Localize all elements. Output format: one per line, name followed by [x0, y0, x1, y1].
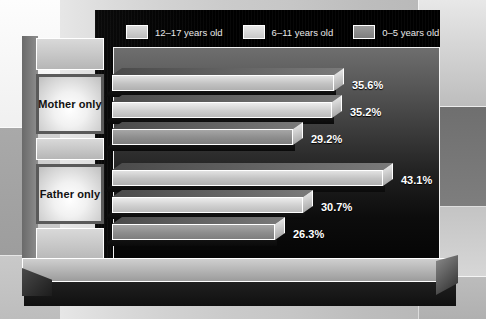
bar-front-face [112, 129, 293, 145]
axis-panel-spacer [36, 38, 104, 70]
bar-top-face [112, 122, 303, 129]
bar-father-12-17[interactable] [112, 170, 393, 186]
legend-swatch-0-5 [353, 25, 375, 39]
bar-value-label: 43.1% [401, 174, 432, 186]
legend-swatch-6-11 [243, 25, 265, 39]
bar-front-face [112, 224, 275, 240]
legend-swatch-12-17 [126, 25, 148, 39]
bar-value-label: 35.2% [350, 106, 381, 118]
bar-father-0-5[interactable] [112, 224, 285, 240]
legend-label: 12–17 years old [155, 27, 223, 38]
chart-canvas: 12–17 years old 6–11 years old 0–5 years… [0, 0, 486, 319]
legend-item-12-17[interactable]: 12–17 years old [126, 25, 223, 39]
bar-front-face [112, 75, 334, 91]
axis-label-father-only: Father only [36, 164, 104, 224]
chart-legend: 12–17 years old 6–11 years old 0–5 years… [126, 23, 459, 41]
bar-value-label: 29.2% [311, 133, 342, 145]
bar-front-face [112, 170, 383, 186]
legend-label: 6–11 years old [272, 27, 334, 38]
bar-top-face [112, 95, 342, 102]
axis-panel-spacer [36, 228, 104, 262]
bar-front-face [112, 102, 332, 118]
bar-top-face [112, 68, 344, 75]
bar-front-face [112, 197, 303, 213]
axis-label-mother-only: Mother only [36, 74, 104, 134]
bar-mother-12-17[interactable] [112, 75, 344, 91]
bar-mother-0-5[interactable] [112, 129, 303, 145]
bar-top-face [112, 190, 313, 197]
bar-top-face [112, 163, 393, 170]
axis-label-text: Mother only [38, 98, 101, 110]
legend-label: 0–5 years old [382, 27, 439, 38]
axis-label-text: Father only [40, 188, 100, 200]
axis-panel-spacer [36, 138, 104, 160]
legend-item-6-11[interactable]: 6–11 years old [243, 25, 334, 39]
legend-item-0-5[interactable]: 0–5 years old [353, 25, 439, 39]
bar-value-label: 26.3% [293, 228, 324, 240]
chart-base-top [22, 258, 448, 282]
bar-father-6-11[interactable] [112, 197, 313, 213]
bar-mother-6-11[interactable] [112, 102, 342, 118]
bar-top-face [112, 217, 285, 224]
bar-value-label: 35.6% [352, 79, 383, 91]
bar-value-label: 30.7% [321, 201, 352, 213]
